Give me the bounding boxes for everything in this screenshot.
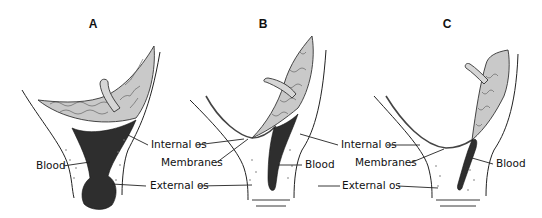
panel-c-letter: C: [443, 17, 452, 31]
label-internal-os-b: Internal os: [151, 138, 207, 150]
panel-b-letter: B: [259, 17, 268, 31]
label-external-os-b: External os: [150, 179, 209, 191]
label-blood-b: Blood: [305, 158, 335, 170]
panel-b: B Blood: [190, 17, 335, 206]
blood: [457, 139, 476, 190]
label-blood-c: Blood: [496, 157, 526, 169]
panel-c: C Blood: [374, 17, 526, 206]
label-internal-os-c: Internal os: [341, 138, 397, 150]
label-membranes-c: Membranes: [355, 156, 417, 168]
membranes: [206, 96, 276, 138]
placenta: [38, 46, 154, 122]
label-membranes-b: Membranes: [161, 156, 223, 168]
panel-a: A Blood: [22, 17, 160, 209]
placental-abruption-diagram: A Blood Internal os Membranes External o…: [0, 0, 542, 218]
shared-labels-ab: Internal os Membranes External os: [112, 135, 252, 191]
leader-membranes-b: [216, 139, 248, 163]
blood-clot: [72, 120, 136, 209]
label-external-os-c: External os: [342, 179, 401, 191]
placenta: [472, 50, 509, 140]
leader-external-os-a: [112, 184, 146, 186]
panel-a-letter: A: [89, 17, 98, 31]
membranes: [386, 96, 472, 148]
label-blood-a: Blood: [36, 159, 66, 171]
